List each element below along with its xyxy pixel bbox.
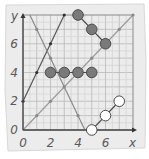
x-tick-label: 0 bbox=[19, 136, 27, 150]
small-dot bbox=[63, 13, 66, 16]
small-dot bbox=[35, 28, 38, 31]
open-circle-marker bbox=[114, 96, 125, 107]
x-tick-label: 6 bbox=[102, 136, 110, 150]
filled-circle-marker bbox=[100, 38, 111, 49]
y-tick-label: 0 bbox=[10, 123, 18, 137]
small-dot bbox=[118, 28, 121, 31]
x-axis-label: x bbox=[128, 136, 137, 150]
y-tick-label: 2 bbox=[10, 94, 18, 108]
small-dot bbox=[49, 100, 52, 103]
small-dot bbox=[90, 57, 93, 60]
small-dot bbox=[76, 114, 79, 117]
x-tick-label: 2 bbox=[47, 136, 55, 150]
coordinate-grid-chart: 02460246 y x bbox=[0, 0, 149, 159]
filled-circle-marker bbox=[73, 67, 84, 78]
open-circle-marker bbox=[100, 110, 111, 121]
filled-circle-marker bbox=[45, 67, 56, 78]
y-tick-label: 4 bbox=[10, 66, 18, 80]
filled-circle-marker bbox=[59, 67, 70, 78]
x-tick-label: 4 bbox=[74, 136, 82, 150]
y-axis-label: y bbox=[10, 9, 19, 23]
filled-circle-marker bbox=[86, 67, 97, 78]
y-tick-label: 6 bbox=[10, 37, 18, 51]
filled-circle-marker bbox=[86, 24, 97, 35]
small-dot bbox=[49, 42, 52, 45]
small-dot bbox=[35, 71, 38, 74]
filled-circle-marker bbox=[73, 10, 84, 21]
small-dot bbox=[131, 13, 134, 16]
small-dot bbox=[49, 57, 52, 60]
small-dot bbox=[35, 114, 38, 117]
open-circle-marker bbox=[86, 125, 97, 136]
